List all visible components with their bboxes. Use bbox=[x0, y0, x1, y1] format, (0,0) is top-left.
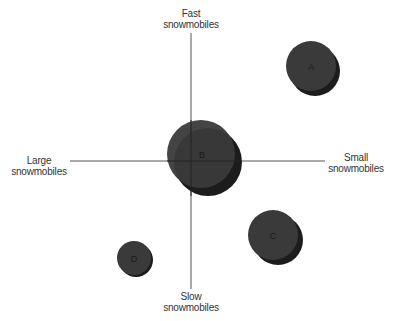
axis-label-right: Small snowmobiles bbox=[320, 152, 392, 174]
axis-label-top-line1: Fast bbox=[150, 8, 232, 19]
axis-label-right-line1: Small bbox=[320, 152, 392, 163]
svg-text:C: C bbox=[270, 231, 277, 241]
axis-label-top: Fast snowmobiles bbox=[150, 8, 232, 30]
axis-label-left: Large snowmobiles bbox=[4, 155, 74, 177]
axis-label-bottom: Slow snowmobiles bbox=[150, 291, 232, 313]
bubble-d: D bbox=[117, 241, 153, 277]
svg-text:B: B bbox=[199, 150, 205, 160]
bubble-c: C bbox=[248, 210, 303, 265]
axis-label-left-line2: snowmobiles bbox=[4, 166, 74, 177]
axis-label-bottom-line1: Slow bbox=[150, 291, 232, 302]
svg-text:D: D bbox=[131, 254, 138, 264]
bubble-a: A bbox=[286, 41, 340, 96]
axis-label-bottom-line2: snowmobiles bbox=[150, 302, 232, 313]
axis-label-top-line2: snowmobiles bbox=[150, 19, 232, 30]
axis-label-right-line2: snowmobiles bbox=[320, 163, 392, 174]
bubble-b: B bbox=[167, 120, 242, 196]
axis-label-left-line1: Large bbox=[4, 155, 74, 166]
svg-text:A: A bbox=[308, 62, 314, 72]
